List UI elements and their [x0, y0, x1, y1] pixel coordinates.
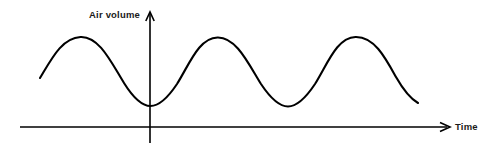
air-volume-curve — [40, 37, 418, 107]
air-volume-time-chart: Air volume Time — [0, 0, 494, 150]
x-axis-label: Time — [455, 121, 478, 132]
y-axis-label: Air volume — [89, 9, 140, 20]
